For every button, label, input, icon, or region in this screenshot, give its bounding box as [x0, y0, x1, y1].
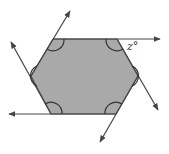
angle-label-z: z°: [126, 40, 138, 53]
hexagon-diagram: z°: [0, 0, 169, 154]
